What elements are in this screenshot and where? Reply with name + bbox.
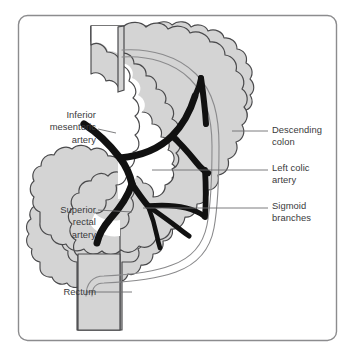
figure-root: Inferior mesenteric artery Superior rect… (0, 0, 352, 357)
label-left-colic-artery: Left colic artery (272, 162, 348, 187)
transverse-colon-cut-edge (118, 26, 124, 92)
label-sigmoid-branches: Sigmoid branches (272, 200, 348, 225)
label-superior-rectal-artery: Superior rectal artery (18, 204, 96, 241)
label-descending-colon: Descending colon (272, 124, 348, 149)
label-inferior-mesenteric-artery: Inferior mesenteric artery (18, 109, 96, 146)
label-rectum: Rectum (18, 286, 96, 298)
marginal-artery-colonic-segment-lower (205, 170, 206, 217)
